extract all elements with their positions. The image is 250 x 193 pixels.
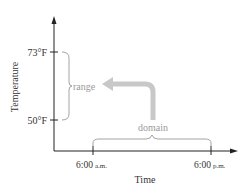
y-tick-label-73: 73°F — [27, 47, 47, 58]
x-axis — [54, 149, 238, 154]
x-tick-label-6am: 6:00a.m. — [76, 160, 107, 170]
domain-to-range-arrow — [112, 84, 153, 120]
x-tick-label-6pm: 6:00p.m. — [194, 160, 226, 170]
y-tick-label-50: 50°F — [27, 115, 47, 126]
arrowhead-icon — [102, 77, 113, 91]
x-axis-arrow-icon — [230, 149, 238, 154]
y-axis-label: Temperature — [9, 61, 20, 112]
y-axis-arrow-icon — [52, 16, 57, 24]
range-brace — [62, 52, 72, 120]
domain-range-diagram: 73°F 50°F 6:00a.m. 6:00p.m. Temperature … — [0, 0, 250, 193]
x-axis-label: Time — [135, 174, 156, 185]
range-label: range — [73, 81, 96, 92]
domain-brace — [93, 135, 211, 148]
domain-label: domain — [138, 122, 168, 133]
y-axis — [52, 16, 57, 151]
